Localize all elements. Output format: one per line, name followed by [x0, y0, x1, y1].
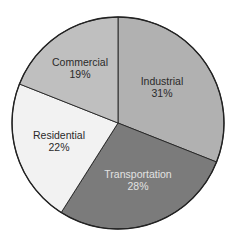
slice-label-name: Industrial	[141, 75, 184, 87]
slice-label-pct: 31%	[151, 87, 172, 99]
pie-chart: Industrial31%Transportation28%Residentia…	[0, 0, 235, 244]
slice-label-name: Transportation	[104, 168, 171, 180]
slice-label-pct: 22%	[48, 141, 69, 153]
pie-slices	[12, 17, 224, 229]
slice-label-pct: 19%	[69, 68, 90, 80]
slice-label-name: Commercial	[52, 56, 108, 68]
slice-label-pct: 28%	[127, 180, 148, 192]
slice-label-name: Residential	[33, 129, 85, 141]
